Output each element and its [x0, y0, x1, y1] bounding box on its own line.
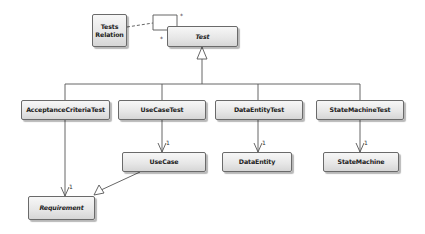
class-state-machine-test[interactable]: StateMachineTest	[316, 100, 404, 120]
class-tests-relation[interactable]: Tests Relation	[92, 14, 127, 47]
class-label: DataEntity	[239, 158, 275, 166]
class-use-case-test[interactable]: UseCaseTest	[118, 100, 206, 120]
class-label: UseCaseTest	[141, 106, 184, 114]
class-label: UseCase	[150, 158, 179, 166]
multiplicity-label: 1	[166, 139, 170, 146]
class-requirement[interactable]: Requirement	[28, 196, 95, 220]
class-label: StateMachineTest	[330, 106, 391, 114]
class-acceptance-criteria-test[interactable]: AcceptanceCriteriaTest	[21, 100, 110, 120]
multiplicity-label: *	[180, 12, 183, 19]
class-test[interactable]: Test	[167, 26, 238, 47]
class-data-entity[interactable]: DataEntity	[222, 152, 292, 172]
association-class-link	[127, 23, 153, 27]
generalization-arrowhead	[197, 47, 207, 59]
class-label: Test	[196, 33, 210, 41]
class-use-case[interactable]: UseCase	[122, 152, 206, 172]
class-label-line1: Tests	[101, 23, 119, 31]
class-label: AcceptanceCriteriaTest	[26, 106, 105, 114]
usecase-generalization-line	[101, 172, 140, 190]
class-label: Requirement	[39, 204, 83, 212]
multiplicity-label: 1	[69, 183, 73, 190]
class-data-entity-test[interactable]: DataEntityTest	[215, 100, 303, 120]
class-label: StateMachine	[338, 158, 385, 166]
class-label: DataEntityTest	[234, 106, 284, 114]
class-state-machine[interactable]: StateMachine	[323, 152, 399, 172]
usecase-generalization-arrowhead	[94, 185, 104, 195]
multiplicity-label: 1	[364, 139, 368, 146]
multiplicity-label: *	[160, 35, 163, 42]
multiplicity-label: 1	[262, 139, 266, 146]
class-label-line2: Relation	[95, 31, 123, 39]
